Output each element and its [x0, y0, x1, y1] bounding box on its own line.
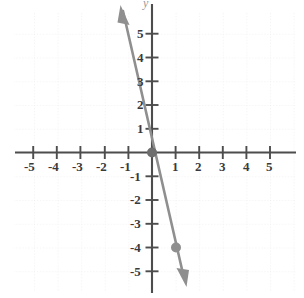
xtick-label-5: 5: [266, 160, 273, 173]
xtick-label--2: -2: [96, 160, 107, 173]
xtick-label--4: -4: [48, 160, 59, 173]
xtick-label--3: -3: [72, 160, 83, 173]
ytick-label-2: 2: [137, 98, 144, 111]
xtick-label-4: 4: [243, 160, 250, 173]
ytick-label-4: 4: [137, 51, 144, 64]
y-axis-label: y: [143, 0, 148, 9]
arrowhead-up: [118, 5, 130, 25]
xtick-label--5: -5: [24, 160, 35, 173]
xtick-label-2: 2: [195, 160, 202, 173]
plot-area: [0, 0, 304, 298]
ytick-label-3: 3: [137, 75, 144, 88]
ytick-label-1: 1: [137, 122, 144, 135]
point-origin[interactable]: [147, 148, 157, 158]
point-1-neg4[interactable]: [171, 243, 181, 253]
ytick-label--2: -2: [130, 193, 141, 206]
arrowhead-down: [177, 268, 190, 287]
ytick-label--4: -4: [130, 241, 141, 254]
ytick-label--1: -1: [130, 170, 141, 183]
ytick-label--5: -5: [130, 265, 141, 278]
xtick-label-1: 1: [172, 160, 179, 173]
ytick-label-5: 5: [137, 27, 144, 40]
xtick-label-3: 3: [219, 160, 226, 173]
ytick-label--3: -3: [130, 217, 141, 230]
graph-canvas: -5 -4 -3 -2 -1 1 2 3 4 5 5 4 3 2 1 -1 -2…: [0, 0, 304, 298]
